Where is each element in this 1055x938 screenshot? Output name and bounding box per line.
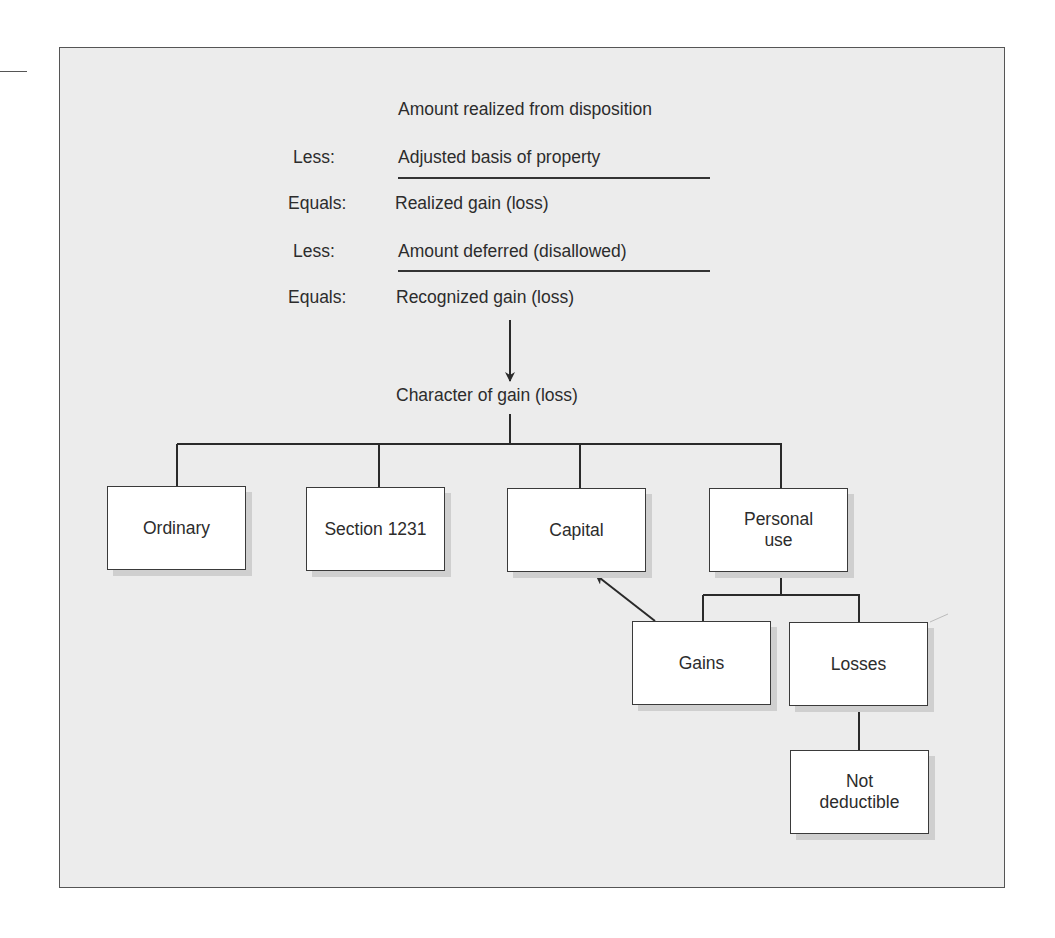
box-not-deductible-line2: deductible [820,792,900,813]
box-personal-use-line1: Personal [744,509,813,530]
box-gains-label: Gains [679,653,725,674]
box-not-deductible-line1: Not [846,771,873,792]
box-capital-label: Capital [549,520,603,541]
box-capital: Capital [507,488,646,572]
box-ordinary: Ordinary [107,486,246,570]
box-section-1231: Section 1231 [306,487,445,571]
box-personal-use-line2: use [764,530,792,551]
box-losses: Losses [789,622,928,706]
box-gains: Gains [632,621,771,705]
box-personal-use: Personal use [709,488,848,572]
box-ordinary-label: Ordinary [143,518,210,539]
box-section-1231-label: Section 1231 [324,519,426,540]
box-not-deductible: Not deductible [790,750,929,834]
gains-to-capital-arrow-icon [596,575,655,621]
box-losses-label: Losses [831,654,886,675]
